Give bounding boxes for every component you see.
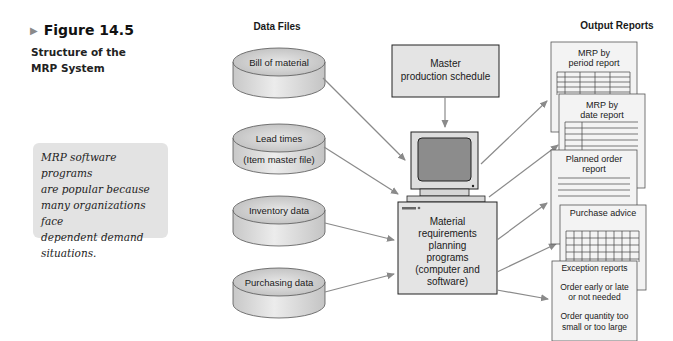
report-label: date report	[580, 110, 624, 120]
report-label: or not needed	[568, 292, 621, 302]
report-label: small or too large	[562, 322, 627, 332]
report-label: MRP by	[586, 100, 618, 110]
report-label: report	[582, 164, 606, 174]
data-file-inventory-data: Inventory data	[233, 196, 325, 246]
box-label: programs	[426, 252, 468, 263]
report-label: Order early or late	[560, 282, 629, 292]
mrp-programs-box: Material requirements planning programs …	[398, 202, 497, 294]
data-file-bill-of-material: Bill of material	[233, 48, 325, 98]
box-label: requirements	[418, 228, 476, 239]
report-label: Exception reports	[561, 263, 627, 273]
box-label: planning	[429, 240, 467, 251]
data-file-label: Lead times	[256, 133, 303, 144]
data-file-label: Inventory data	[249, 205, 310, 216]
computer-monitor	[407, 132, 485, 202]
report-label: period report	[568, 58, 620, 68]
box-label: production schedule	[401, 71, 491, 82]
data-file-sublabel: (Item master file)	[243, 154, 314, 165]
input-arrows	[323, 78, 405, 292]
box-label: Master	[430, 58, 461, 69]
data-file-purchasing-data: Purchasing data	[233, 268, 325, 318]
box-label: software)	[427, 276, 468, 287]
report-exception: Exception reports Order early or late or…	[552, 261, 637, 341]
mrp-diagram: Data Files Output Reports Bill of materi…	[0, 0, 673, 341]
data-file-lead-times: Lead times (Item master file)	[233, 124, 325, 174]
data-file-label: Bill of material	[249, 57, 309, 68]
data-files-header: Data Files	[253, 21, 301, 32]
report-label: Order quantity too	[560, 311, 628, 321]
box-label: (computer and	[415, 264, 479, 275]
report-label: Planned order	[566, 154, 623, 164]
report-label: MRP by	[578, 48, 610, 58]
master-production-schedule-box: Master production schedule	[392, 45, 499, 97]
drive-slot-icon	[402, 207, 416, 210]
data-file-label: Purchasing data	[245, 277, 314, 288]
output-reports-header: Output Reports	[580, 20, 654, 31]
report-label: Purchase advice	[570, 208, 637, 218]
box-label: Material	[430, 216, 466, 227]
